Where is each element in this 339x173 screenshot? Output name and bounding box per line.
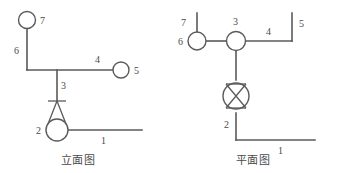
label-5: 5: [134, 65, 139, 76]
label-3: 3: [61, 80, 66, 91]
sprinkler-plan: [223, 83, 249, 109]
plan-caption: 平面图: [236, 154, 270, 167]
circle-5: [113, 62, 129, 78]
plan-label-2: 2: [224, 119, 229, 130]
circle-6: [188, 32, 206, 50]
plan-view-group: 7 6 3 4 5 2 1 平面图: [178, 13, 315, 167]
circle-2: [46, 119, 68, 141]
plan-label-7: 7: [181, 17, 186, 28]
circle-3: [227, 32, 246, 51]
label-2: 2: [36, 125, 41, 136]
elevation-caption: 立面图: [61, 153, 95, 167]
elevation-view-group: 7 6 4 5 3 2 1 立面图: [14, 12, 142, 168]
label-4: 4: [95, 54, 100, 65]
plan-label-4: 4: [266, 26, 271, 37]
plan-label-1: 1: [278, 145, 283, 156]
label-1: 1: [101, 135, 106, 146]
sprinkler-elevation: [46, 101, 68, 141]
piping-diagram-figure: 7 6 4 5 3 2 1 立面图: [0, 0, 339, 173]
plan-label-5: 5: [299, 18, 304, 29]
label-6: 6: [14, 45, 19, 56]
diagram-canvas: 7 6 4 5 3 2 1 立面图: [0, 0, 339, 173]
circle-7: [19, 12, 36, 29]
plan-label-3: 3: [233, 16, 238, 27]
plan-label-6: 6: [178, 36, 183, 47]
label-7: 7: [40, 15, 45, 26]
